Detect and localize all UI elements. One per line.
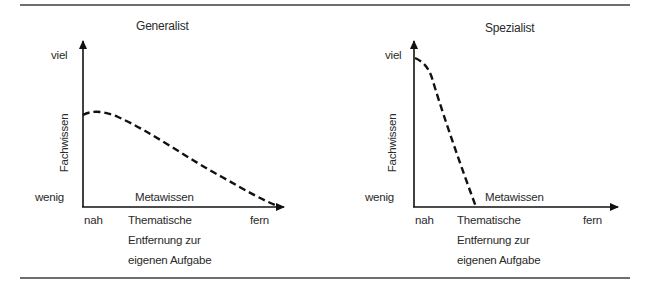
generalist-x-end-label: fern (250, 213, 269, 227)
generalist-area-label: Metawissen (135, 190, 194, 204)
diagram-canvas (0, 0, 651, 287)
spezialist-title: Spezialist (485, 21, 534, 35)
generalist-title: Generalist (136, 19, 189, 33)
spezialist-x-axis-label: Thematische Entfernung zur eigenen Aufga… (457, 210, 540, 270)
generalist-y-low-label: wenig (35, 190, 64, 204)
generalist-x-axis-label-line-3: eigenen Aufgabe (128, 250, 211, 270)
spezialist-y-axis-label: Fachwissen (385, 113, 399, 173)
generalist-chart (82, 41, 284, 207)
spezialist-x-start-label: nah (415, 213, 434, 227)
spezialist-y-high-label: viel (385, 48, 401, 62)
spezialist-x-axis-label-line-2: Entfernung zur (457, 230, 540, 250)
generalist-y-high-label: viel (51, 48, 67, 62)
spezialist-chart (413, 41, 618, 207)
generalist-y-axis-label: Fachwissen (57, 113, 71, 173)
spezialist-y-low-label: wenig (365, 190, 394, 204)
spezialist-x-axis-label-line-3: eigenen Aufgabe (457, 250, 540, 270)
spezialist-x-end-label: fern (583, 213, 602, 227)
spezialist-area-label: Metawissen (485, 190, 544, 204)
generalist-x-axis-label-line-2: Entfernung zur (128, 230, 211, 250)
generalist-x-start-label: nah (84, 213, 103, 227)
generalist-x-axis-label: Thematische Entfernung zur eigenen Aufga… (128, 210, 211, 270)
generalist-x-axis-label-line-1: Thematische (128, 210, 211, 230)
spezialist-knowledge-curve (415, 58, 476, 207)
spezialist-x-axis-label-line-1: Thematische (457, 210, 540, 230)
